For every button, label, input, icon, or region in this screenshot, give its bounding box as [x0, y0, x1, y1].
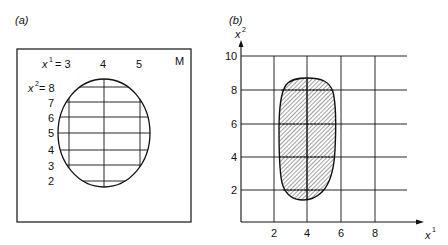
panel-b: (b) x 2 x 1 10 8 6 4 2 2 4 6 [225, 14, 436, 241]
x1-eq-3: = 3 [55, 58, 71, 70]
x2-tick-6: 6 [48, 112, 54, 124]
panel-b-label: (b) [229, 14, 243, 26]
y-axis-superscript: 2 [242, 26, 246, 33]
y-tick-8: 8 [231, 84, 237, 96]
y-tick-2: 2 [231, 184, 237, 196]
y-tick-4: 4 [231, 151, 237, 163]
coordinate-grid-a [50, 70, 160, 200]
x-tick-6: 6 [338, 227, 344, 239]
x2-tick-5: 5 [48, 127, 54, 139]
coordinate-chart-diagram: (a) M x 1 = 3 4 5 x 2 = 8 7 6 5 4 3 2 [0, 0, 448, 245]
panel-a: (a) M x 1 = 3 4 5 x 2 = 8 7 6 5 4 3 2 [15, 14, 191, 222]
x1-tick-5: 5 [136, 58, 142, 70]
y-tick-10: 10 [225, 50, 237, 62]
y-axis-label: x [234, 28, 241, 40]
y-axis-arrow-icon [239, 40, 244, 47]
x2-eq-8: = 8 [39, 82, 55, 94]
manifold-label: M [175, 55, 184, 67]
x2-symbol: x [27, 82, 34, 94]
x-axis-arrow-icon [416, 220, 424, 225]
x1-superscript: 1 [49, 56, 53, 63]
x2-tick-7: 7 [48, 97, 54, 109]
y-tick-6: 6 [231, 118, 237, 130]
x2-tick-4: 4 [48, 144, 54, 156]
x-axis-label: x [424, 229, 431, 241]
x-tick-8: 8 [372, 227, 378, 239]
x-axis-superscript: 1 [432, 226, 436, 233]
x-tick-2: 2 [271, 227, 277, 239]
x1-tick-4: 4 [100, 58, 106, 70]
x-tick-4: 4 [304, 227, 310, 239]
x2-tick-2: 2 [48, 175, 54, 187]
x2-tick-3: 3 [48, 160, 54, 172]
x1-symbol: x [41, 58, 48, 70]
panel-a-label: (a) [15, 14, 29, 26]
